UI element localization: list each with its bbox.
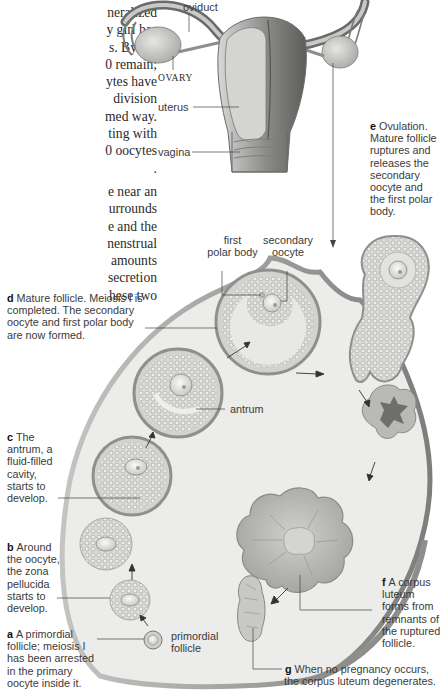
secondary-follicle bbox=[93, 437, 171, 515]
primary-follicle bbox=[80, 518, 132, 570]
corpus-albicans bbox=[238, 576, 265, 642]
stage-letter: d bbox=[7, 292, 14, 304]
first-polar-body-label: first polar body bbox=[205, 234, 260, 258]
stage-a-caption: aA primordial follicle; meiosis I has be… bbox=[7, 628, 94, 689]
stage-letter: a bbox=[7, 628, 13, 640]
primordial-follicle bbox=[144, 631, 162, 649]
ovarian-cycle-illustration bbox=[0, 0, 447, 690]
early-primary-follicle bbox=[110, 580, 150, 620]
stage-letter: c bbox=[7, 431, 13, 443]
secondary-oocyte-label: secondary oocyte bbox=[258, 234, 318, 258]
stage-f-caption: fA corpus luteum forms from remnants of … bbox=[382, 576, 440, 649]
stage-letter: g bbox=[285, 663, 292, 675]
ovary-label: OVARY bbox=[158, 72, 193, 84]
secondary-oocyte bbox=[263, 294, 281, 312]
mature-follicle bbox=[216, 270, 320, 374]
antral-follicle bbox=[134, 349, 222, 437]
stage-letter: e bbox=[370, 120, 376, 132]
antrum-label: antrum bbox=[230, 403, 264, 415]
right-ovary bbox=[322, 36, 358, 68]
stage-d-caption: dMature follicle. Meiosis I is completed… bbox=[7, 292, 143, 341]
stage-b-caption: bAround the oocyte, the zona pellucida s… bbox=[7, 541, 60, 614]
left-ovary bbox=[135, 27, 181, 63]
stage-g-caption: gWhen no pregnancy occurs, the corpus lu… bbox=[285, 663, 436, 687]
vagina-label: vagina bbox=[158, 146, 190, 158]
stage-letter: f bbox=[382, 576, 386, 588]
uterus-label: uterus bbox=[158, 101, 189, 113]
primordial-follicle-label: primordial follicle bbox=[171, 630, 218, 654]
stage-c-caption: cThe antrum, a fluid-filled cavity, star… bbox=[7, 431, 53, 504]
stage-letter: b bbox=[7, 541, 14, 553]
oviduct-label: oviduct bbox=[183, 1, 218, 13]
stage-e-caption: eOvulation. Mature follicle ruptures and… bbox=[370, 120, 437, 218]
